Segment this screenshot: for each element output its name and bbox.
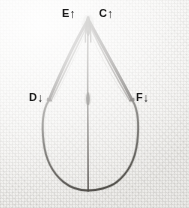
point-label-F-letter: F [136, 92, 143, 103]
down-arrow-icon: ↓ [143, 92, 149, 104]
point-label-D: D↓ [29, 92, 43, 104]
bulb-right-arc [88, 101, 138, 191]
node-center-smudge [85, 92, 92, 106]
ink-drawing-layer [0, 0, 189, 208]
bulb-left-arc-shadow [43, 101, 89, 191]
up-arrow-icon: ↑ [107, 8, 113, 20]
point-label-D-letter: D [29, 92, 37, 103]
figure-canvas: E↑ C↑ D↓ F↓ [0, 0, 189, 208]
ghost-strand-left [54, 28, 88, 99]
limb-right-halo [89, 22, 131, 100]
point-label-C-letter: C [99, 8, 107, 19]
bulb-right-arc-shadow [88, 101, 138, 191]
point-label-F: F↓ [136, 92, 149, 104]
ghost-strand-right [88, 28, 127, 99]
down-arrow-icon: ↓ [37, 92, 43, 104]
apex-smudge [82, 15, 94, 34]
limb-left-halo [50, 22, 87, 100]
center-axis-halo [88, 24, 89, 190]
point-label-E: E↑ [62, 8, 75, 20]
point-label-C: C↑ [99, 8, 113, 20]
bulb-left-arc [43, 101, 89, 191]
up-arrow-icon: ↑ [69, 8, 75, 20]
